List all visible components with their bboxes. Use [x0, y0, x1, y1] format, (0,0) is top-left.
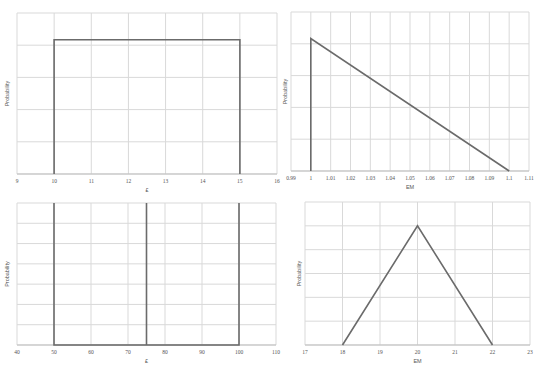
- y-axis-label: Probability: [4, 80, 10, 106]
- x-tick-label: 10: [51, 178, 57, 184]
- x-axis-label: £: [145, 187, 148, 193]
- y-axis-label: Probability: [296, 260, 302, 286]
- x-tick-label: 50: [51, 349, 57, 355]
- x-tick-label: 1.09: [485, 175, 495, 181]
- chart-top-left: 910111213141516£Probability: [4, 13, 280, 193]
- chart-top-right: 0.9911.011.021.031.041.051.061.071.081.0…: [282, 12, 534, 190]
- x-tick-label: 70: [125, 349, 131, 355]
- x-tick-label: 23: [527, 349, 533, 355]
- x-tick-label: 1.07: [445, 175, 455, 181]
- charts-svg: 910111213141516£Probability0.9911.011.02…: [0, 0, 546, 376]
- x-axis-label: EM: [413, 358, 422, 364]
- x-tick-label: 100: [235, 349, 244, 355]
- chart-bottom-left: 405060708090100110£Probability: [4, 203, 280, 364]
- x-tick-label: 1.03: [366, 175, 376, 181]
- x-tick-label: 13: [163, 178, 169, 184]
- x-tick-label: 19: [377, 349, 383, 355]
- x-tick-label: 1.04: [385, 175, 395, 181]
- x-tick-label: 9: [16, 178, 19, 184]
- x-tick-label: 1.1: [506, 175, 513, 181]
- x-tick-label: 80: [162, 349, 168, 355]
- x-tick-label: 16: [274, 178, 280, 184]
- x-tick-label: 18: [340, 349, 346, 355]
- x-tick-label: 14: [200, 178, 206, 184]
- y-axis-label: Probability: [4, 261, 10, 287]
- x-tick-label: 90: [199, 349, 205, 355]
- chart-bottom-right: 17181920212223EMProbability: [296, 202, 533, 364]
- x-tick-label: 40: [14, 349, 20, 355]
- x-tick-label: 22: [490, 349, 496, 355]
- x-tick-label: 1: [309, 175, 312, 181]
- series-line: [54, 203, 239, 345]
- x-tick-label: 12: [126, 178, 132, 184]
- x-tick-label: 60: [88, 349, 94, 355]
- x-tick-label: 0.99: [286, 175, 296, 181]
- x-tick-label: 21: [452, 349, 458, 355]
- x-tick-label: 1.02: [346, 175, 356, 181]
- x-tick-label: 1.06: [425, 175, 435, 181]
- x-tick-label: 1.05: [405, 175, 415, 181]
- x-tick-label: 1.01: [326, 175, 336, 181]
- series-line: [54, 40, 240, 174]
- x-axis-label: EM: [406, 184, 415, 190]
- x-axis-label: £: [145, 358, 148, 364]
- x-tick-label: 110: [272, 349, 280, 355]
- x-tick-label: 15: [237, 178, 243, 184]
- x-tick-label: 11: [89, 178, 95, 184]
- y-axis-label: Probability: [282, 78, 288, 104]
- x-tick-label: 20: [415, 349, 421, 355]
- x-tick-label: 1.08: [465, 175, 475, 181]
- x-tick-label: 1.11: [524, 175, 534, 181]
- x-tick-label: 17: [302, 349, 308, 355]
